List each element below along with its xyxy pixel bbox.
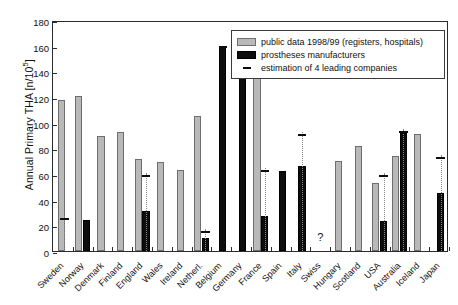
bar-public-data	[194, 116, 201, 251]
bar-public-data	[372, 183, 379, 251]
x-axis-tick-mark	[132, 247, 133, 251]
x-axis-tick-mark	[192, 247, 193, 251]
bar-manufacturers	[279, 171, 286, 251]
y-axis-tick-label: 40	[27, 196, 49, 207]
x-axis-tick-mark	[231, 247, 232, 251]
y-axis-tick-label: 120	[27, 94, 49, 105]
y-axis-tick-mark	[53, 73, 57, 74]
bar-public-data	[392, 156, 399, 251]
y-axis-tick-mark	[53, 48, 57, 49]
estimation-marker	[298, 134, 307, 136]
legend-swatch-public-icon	[237, 38, 256, 46]
y-axis-tick-label: 60	[27, 171, 49, 182]
x-axis-tick-mark	[152, 247, 153, 251]
bar-manufacturers	[83, 220, 90, 251]
estimation-marker	[379, 175, 388, 177]
y-axis-tick-mark	[53, 99, 57, 100]
y-axis-tick-label: 140	[27, 68, 49, 79]
x-axis-tick-mark	[93, 247, 94, 251]
y-axis-tick-label: 180	[27, 17, 49, 28]
bar-public-data	[97, 136, 104, 252]
y-axis-tick-mark	[53, 125, 57, 126]
estimation-marker	[261, 170, 270, 172]
x-axis-tick-mark	[390, 247, 391, 251]
y-axis-tick-label: 80	[27, 145, 49, 156]
bar-public-data	[253, 76, 260, 251]
legend-item-label: prostheses manufacturers	[261, 50, 365, 60]
y-axis-tick-label: 160	[27, 42, 49, 53]
x-axis-tick-mark	[310, 247, 311, 251]
bar-public-data	[335, 161, 342, 251]
bar-public-data	[75, 96, 82, 251]
estimation-marker	[142, 175, 151, 177]
x-axis-tick-mark	[291, 247, 292, 251]
estimation-stem	[441, 155, 442, 251]
x-axis-tick-mark	[172, 247, 173, 251]
estimation-marker	[399, 131, 408, 133]
estimation-stem	[384, 173, 385, 251]
x-axis-tick-mark	[429, 247, 430, 251]
y-axis-title-tail: ]	[23, 59, 35, 62]
bar-public-data	[355, 146, 362, 251]
y-axis-tick-label: 100	[27, 119, 49, 130]
bar-manufacturers	[239, 65, 246, 251]
legend-item: estimation of 4 leading companies	[237, 61, 439, 74]
y-axis-tick-mark	[53, 253, 57, 254]
x-axis-tick-mark	[449, 247, 450, 251]
x-axis-tick-mark	[330, 247, 331, 251]
estimation-stem	[403, 129, 404, 251]
y-axis-tick-mark	[53, 150, 57, 151]
x-axis-tick-mark	[251, 247, 252, 251]
bar-public-data	[135, 159, 142, 251]
legend-item-label: estimation of 4 leading companies	[261, 63, 397, 73]
y-axis-tick-mark	[53, 176, 57, 177]
bar-public-data	[177, 170, 184, 251]
legend-swatch-dash-icon	[237, 64, 256, 72]
x-axis-tick-mark	[271, 247, 272, 251]
y-axis-title-exponent: 5	[21, 62, 30, 66]
x-axis-tick-mark	[211, 247, 212, 251]
estimation-marker	[60, 218, 69, 220]
x-axis-tick-mark	[350, 247, 351, 251]
estimation-stem	[146, 173, 147, 251]
chart-figure: Annual Primary THA [n/105] 0204060801001…	[0, 0, 458, 305]
estimation-stem	[302, 132, 303, 251]
missing-data-question-mark: ?	[317, 231, 323, 243]
bar-public-data	[117, 132, 124, 251]
x-axis-tick-mark	[73, 247, 74, 251]
chart-legend: public data 1998/99 (registers, hospital…	[231, 30, 445, 79]
legend-item: prostheses manufacturers	[237, 48, 439, 61]
estimation-stem	[265, 168, 266, 251]
bar-manufacturers	[219, 47, 226, 251]
x-axis-tick-mark	[112, 247, 113, 251]
bar-public-data	[414, 134, 421, 251]
legend-item-label: public data 1998/99 (registers, hospital…	[261, 37, 423, 47]
y-axis-tick-mark	[53, 227, 57, 228]
estimation-stem	[64, 216, 65, 251]
bar-public-data	[157, 162, 164, 251]
estimation-marker	[219, 46, 228, 48]
estimation-marker	[436, 157, 445, 159]
legend-swatch-manu-icon	[237, 51, 256, 59]
y-axis-tick-label: 0	[27, 248, 49, 259]
legend-item: public data 1998/99 (registers, hospital…	[237, 35, 439, 48]
x-axis-tick-mark	[370, 247, 371, 251]
y-axis-tick-mark	[53, 202, 57, 203]
x-axis-tick-mark	[409, 247, 410, 251]
estimation-marker	[201, 231, 210, 233]
y-axis-tick-label: 20	[27, 222, 49, 233]
y-axis-tick-mark	[53, 22, 57, 23]
